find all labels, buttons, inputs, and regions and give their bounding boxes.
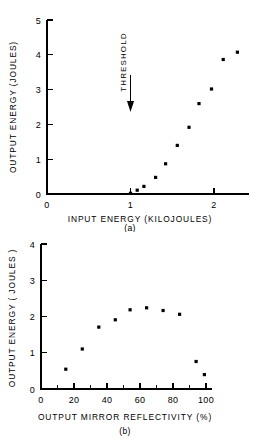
chart-panel-a: 0 1 2 3 4 5 0 1 2 OUTPUT ENERGY (JOULES) [0,0,259,232]
y-tick-label: 0 [30,385,35,395]
data-point [164,162,167,165]
x-axis-tick-labels-a: 0 1 2 [44,200,216,210]
scatter-plot-a: 0 1 2 3 4 5 0 1 2 OUTPUT ENERGY (JOULES) [0,0,259,232]
y-tick-label: 3 [36,85,41,95]
figure-container: 0 1 2 3 4 5 0 1 2 OUTPUT ENERGY (JOULES) [0,0,259,447]
y-tick-label: 3 [30,276,35,286]
axis-lines-a [47,20,249,194]
y-tick-label: 2 [36,120,41,130]
x-tick-label: 2 [211,200,216,210]
data-point [114,318,117,321]
scatter-plot-b: 0 1 2 3 4 [0,228,259,447]
y-tick-label: 2 [30,312,35,322]
x-tick-label: 80 [168,395,179,405]
data-point [187,126,190,129]
data-point [197,102,200,105]
y-tick-label: 4 [36,50,41,60]
data-point [142,185,145,188]
data-points-a [129,51,239,195]
data-point [178,313,181,316]
y-tick-label: 1 [30,348,35,358]
data-point [145,306,148,309]
y-tick-label: 0 [36,190,41,200]
data-point [64,368,67,371]
data-point [129,192,132,195]
y-axis-tick-labels-b: 0 1 2 3 4 [30,240,35,395]
data-point [203,373,206,376]
data-point [81,347,84,350]
axis-lines-b [41,244,212,389]
x-tick-label: 1 [128,200,133,210]
data-point [222,58,225,61]
y-axis-tick-labels-a: 0 1 2 3 4 5 [36,16,41,200]
y-tick-label: 4 [30,240,35,250]
threshold-arrow-head [127,101,134,112]
x-tick-label: 0 [38,395,43,405]
y-axis-title-b: OUTPUT ENERGY ( JOULES ) [7,249,17,388]
data-point [195,360,198,363]
x-tick-label: 0 [44,200,49,210]
data-point [129,308,132,311]
x-axis-minor-ticks-b [58,385,190,389]
y-axis-title-a: OUTPUT ENERGY (JOULES) [8,41,18,173]
x-axis-tick-labels-b: 0 20 40 60 80 100 [38,395,214,405]
data-point [176,144,179,147]
x-tick-label: 40 [102,395,113,405]
x-axis-title-a: INPUT ENERGY (KILOJOULES) [68,214,213,224]
y-axis-ticks-a [47,20,53,194]
y-tick-label: 5 [36,16,41,26]
threshold-label: THRESHOLD [119,32,128,91]
panel-caption-b: (b) [119,426,131,436]
y-axis-ticks-b [41,244,47,389]
data-point [136,189,139,192]
x-axis-title-b: OUTPUT MIRROR REFLECTIVITY (%) [38,412,212,422]
data-point [210,87,213,90]
data-point [162,309,165,312]
chart-panel-b: 0 1 2 3 4 [0,228,259,447]
data-points-b [64,306,206,376]
threshold-annotation: THRESHOLD [119,32,134,112]
y-tick-label: 1 [36,155,41,165]
data-point [97,326,100,329]
x-tick-label: 100 [198,395,214,405]
x-tick-label: 20 [69,395,80,405]
x-tick-label: 60 [135,395,146,405]
data-point [154,176,157,179]
data-point [236,51,239,54]
